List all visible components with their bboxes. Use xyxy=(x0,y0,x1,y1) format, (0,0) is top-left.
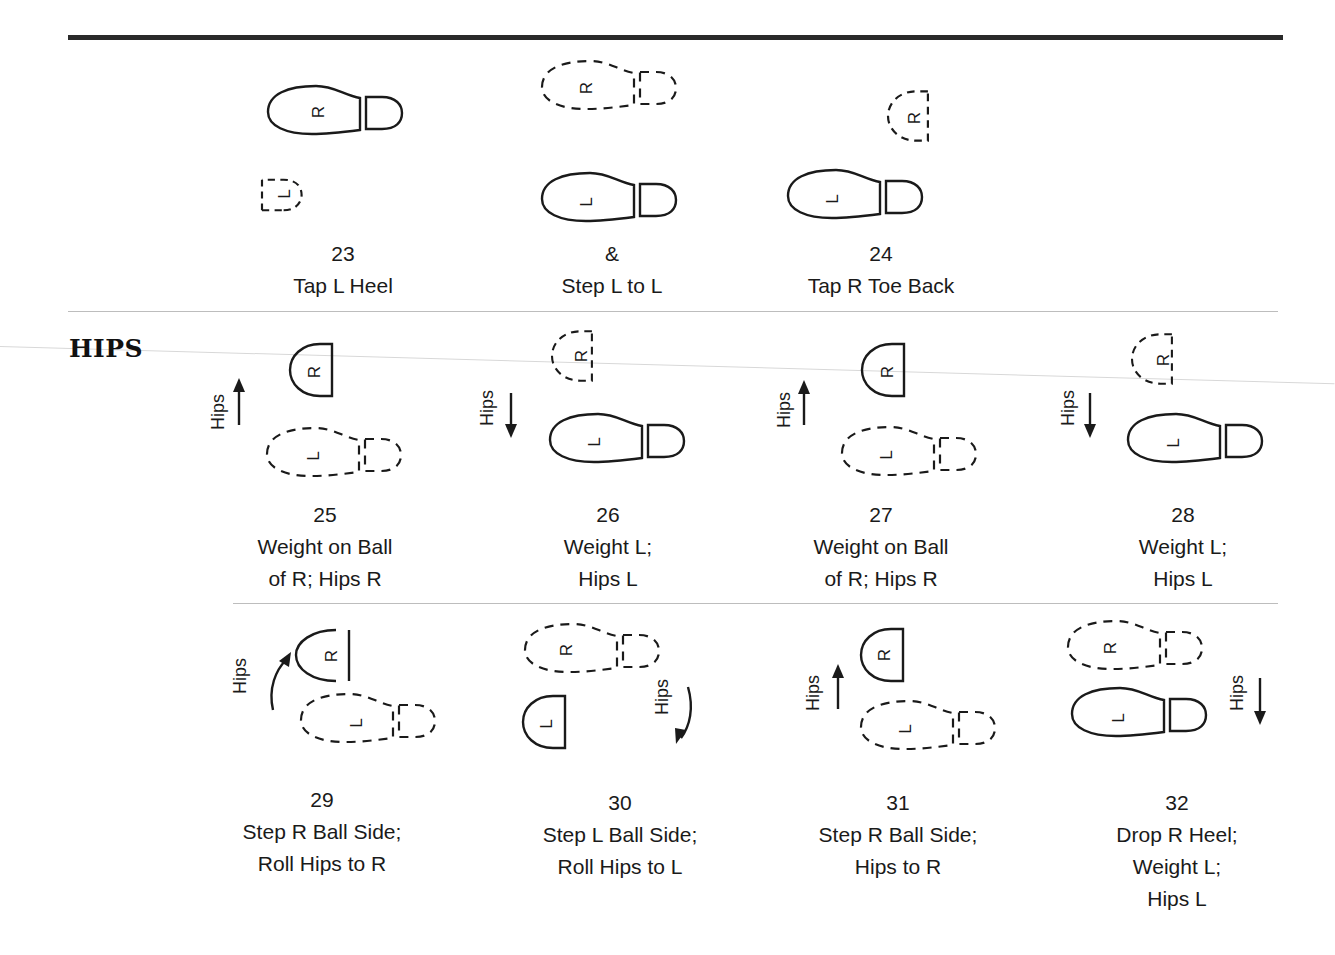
svg-text:R: R xyxy=(1154,354,1173,366)
step-caption-and: & Step L to L xyxy=(562,238,663,302)
step-description: of R; Hips R xyxy=(257,563,392,595)
svg-text:R: R xyxy=(577,82,596,94)
svg-text:Hips: Hips xyxy=(652,679,672,715)
curved-arrow-icon xyxy=(271,660,286,710)
step-23-diagram: R L xyxy=(262,86,402,210)
svg-text:L: L xyxy=(1164,438,1183,447)
step-description: Weight L; xyxy=(1116,851,1237,883)
right-foot-dashed-icon xyxy=(525,624,659,672)
svg-text:L: L xyxy=(537,719,556,728)
step-count: 31 xyxy=(819,787,978,819)
step-count: 26 xyxy=(564,499,652,531)
left-foot-icon xyxy=(1128,414,1262,462)
svg-text:R: R xyxy=(305,366,324,378)
step-caption-31: 31 Step R Ball Side; Hips to R xyxy=(819,787,978,883)
svg-text:R: R xyxy=(1101,642,1120,654)
svg-text:Hips: Hips xyxy=(230,658,250,694)
step-description: Weight on Ball xyxy=(813,531,948,563)
svg-text:L: L xyxy=(347,718,366,727)
svg-text:Hips: Hips xyxy=(1227,675,1247,711)
step-caption-24: 24 Tap R Toe Back xyxy=(808,238,955,302)
step-31-diagram: R L Hips xyxy=(803,629,995,749)
step-description: Weight L; xyxy=(564,531,652,563)
step-description: Roll Hips to R xyxy=(243,848,402,880)
step-description: Drop R Heel; xyxy=(1116,819,1237,851)
step-caption-27: 27 Weight on Ball of R; Hips R xyxy=(813,499,948,595)
step-description: Step R Ball Side; xyxy=(819,819,978,851)
svg-text:R: R xyxy=(905,112,924,124)
svg-text:Hips: Hips xyxy=(774,392,794,428)
step-count: & xyxy=(562,238,663,270)
svg-text:Hips: Hips xyxy=(208,394,228,430)
svg-text:R: R xyxy=(322,650,341,662)
svg-text:R: R xyxy=(309,106,328,118)
svg-text:R: R xyxy=(875,649,894,661)
step-caption-29: 29 Step R Ball Side; Roll Hips to R xyxy=(243,784,402,880)
step-description: Hips L xyxy=(564,563,652,595)
right-foot-dashed-icon xyxy=(1068,621,1202,669)
left-foot-dashed-icon xyxy=(301,694,435,742)
svg-text:L: L xyxy=(275,189,294,198)
left-foot-dashed-icon xyxy=(842,427,976,475)
step-count: 28 xyxy=(1139,499,1227,531)
step-29-diagram: R L Hips xyxy=(230,630,435,742)
right-foot-icon xyxy=(268,86,402,134)
step-24-diagram: R L xyxy=(788,91,928,218)
step-description: Weight L; xyxy=(1139,531,1227,563)
svg-text:L: L xyxy=(585,437,604,446)
step-description: Tap R Toe Back xyxy=(808,270,955,302)
svg-text:R: R xyxy=(878,366,897,378)
right-foot-dashed-icon xyxy=(542,61,676,109)
step-27-diagram: R L Hips xyxy=(774,344,976,475)
step-30-diagram: R L Hips xyxy=(523,624,691,748)
step-description: Tap L Heel xyxy=(293,270,393,302)
svg-text:L: L xyxy=(896,724,915,733)
step-32-diagram: R L Hips xyxy=(1068,621,1266,736)
svg-text:Hips: Hips xyxy=(803,675,823,711)
left-foot-icon xyxy=(550,414,684,462)
step-description: Step L to L xyxy=(562,270,663,302)
step-count: 23 xyxy=(293,238,393,270)
left-foot-icon xyxy=(788,170,922,218)
step-description: Hips to R xyxy=(819,851,978,883)
svg-text:Hips: Hips xyxy=(1058,390,1078,426)
svg-text:L: L xyxy=(577,197,596,206)
step-25-diagram: R L Hips xyxy=(208,344,401,476)
svg-text:L: L xyxy=(1109,713,1128,722)
svg-text:R: R xyxy=(572,350,591,362)
step-and-diagram: R L xyxy=(542,61,676,221)
left-foot-icon xyxy=(542,173,676,221)
step-description: of R; Hips R xyxy=(813,563,948,595)
left-foot-dashed-icon xyxy=(267,428,401,476)
step-caption-23: 23 Tap L Heel xyxy=(293,238,393,302)
left-foot-icon xyxy=(1072,688,1206,736)
step-count: 25 xyxy=(257,499,392,531)
step-caption-26: 26 Weight L; Hips L xyxy=(564,499,652,595)
svg-text:L: L xyxy=(877,450,896,459)
step-count: 24 xyxy=(808,238,955,270)
step-26-diagram: R L Hips xyxy=(477,331,684,462)
step-description: Hips L xyxy=(1116,883,1237,915)
step-count: 27 xyxy=(813,499,948,531)
step-description: Roll Hips to L xyxy=(543,851,698,883)
step-count: 32 xyxy=(1116,787,1237,819)
svg-text:Hips: Hips xyxy=(477,390,497,426)
left-foot-dashed-icon xyxy=(861,701,995,749)
svg-text:R: R xyxy=(557,644,576,656)
step-28-diagram: R L Hips xyxy=(1058,334,1262,462)
step-description: Step L Ball Side; xyxy=(543,819,698,851)
step-caption-28: 28 Weight L; Hips L xyxy=(1139,499,1227,595)
step-count: 30 xyxy=(543,787,698,819)
step-description: Hips L xyxy=(1139,563,1227,595)
step-description: Weight on Ball xyxy=(257,531,392,563)
step-caption-30: 30 Step L Ball Side; Roll Hips to L xyxy=(543,787,698,883)
svg-text:L: L xyxy=(304,451,323,460)
step-caption-25: 25 Weight on Ball of R; Hips R xyxy=(257,499,392,595)
svg-text:L: L xyxy=(823,194,842,203)
step-caption-32: 32 Drop R Heel; Weight L; Hips L xyxy=(1116,787,1237,915)
step-count: 29 xyxy=(243,784,402,816)
step-description: Step R Ball Side; xyxy=(243,816,402,848)
